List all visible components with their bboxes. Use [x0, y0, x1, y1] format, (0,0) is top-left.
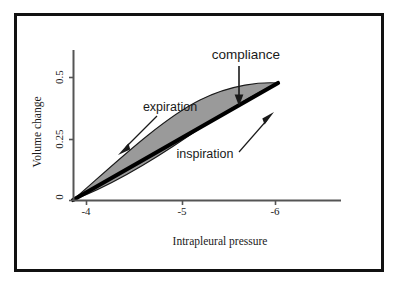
x-axis-title: Intrapleural pressure [173, 235, 268, 248]
y-tick-label-2: 0.5 [53, 70, 65, 84]
expiration-annotation-label: expiration [143, 100, 197, 114]
inspiration-annotation-label: inspiration [177, 147, 234, 161]
y-axis-title: Volume change [31, 96, 44, 167]
figure-border [16, 15, 383, 271]
figure-root: 0.5 0.25 0 Volume change -4 -5 -6 Intrap… [0, 0, 396, 282]
pressure-volume-hysteresis-chart: 0.5 0.25 0 Volume change -4 -5 -6 Intrap… [0, 0, 396, 282]
y-tick-label-0: 0 [53, 194, 65, 200]
y-tick-label-1: 0.25 [53, 129, 65, 149]
x-tick-label-0: -4 [81, 205, 91, 217]
x-tick-label-1: -5 [177, 205, 187, 217]
x-tick-label-2: -6 [270, 205, 280, 217]
compliance-annotation-label: compliance [212, 47, 280, 62]
